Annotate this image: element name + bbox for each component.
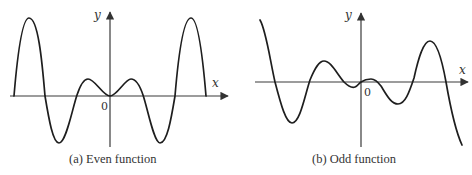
caption-even-function: (a) Even function bbox=[69, 152, 156, 167]
origin-label: 0 bbox=[101, 100, 108, 113]
y-axis-label: y bbox=[93, 8, 101, 22]
caption-odd-function: (b) Odd function bbox=[312, 152, 396, 167]
panel-odd-function: y x 0 bbox=[255, 8, 468, 147]
figure-canvas: y x 0 y x 0 bbox=[0, 0, 472, 175]
x-axis-label: x bbox=[459, 63, 466, 77]
x-axis-label: x bbox=[212, 76, 219, 90]
origin-label: 0 bbox=[364, 86, 371, 99]
panel-even-function: y x 0 bbox=[10, 8, 228, 147]
y-axis-label: y bbox=[344, 8, 352, 22]
